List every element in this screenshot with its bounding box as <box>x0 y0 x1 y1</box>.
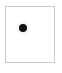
dot-marker-tile[interactable] <box>0 0 62 73</box>
bordered-square-panel[interactable] <box>5 6 55 63</box>
marker-label <box>5 6 6 7</box>
filled-circle-dot-icon[interactable] <box>19 24 27 32</box>
panel-label <box>5 6 6 7</box>
panel-canvas <box>6 7 54 62</box>
